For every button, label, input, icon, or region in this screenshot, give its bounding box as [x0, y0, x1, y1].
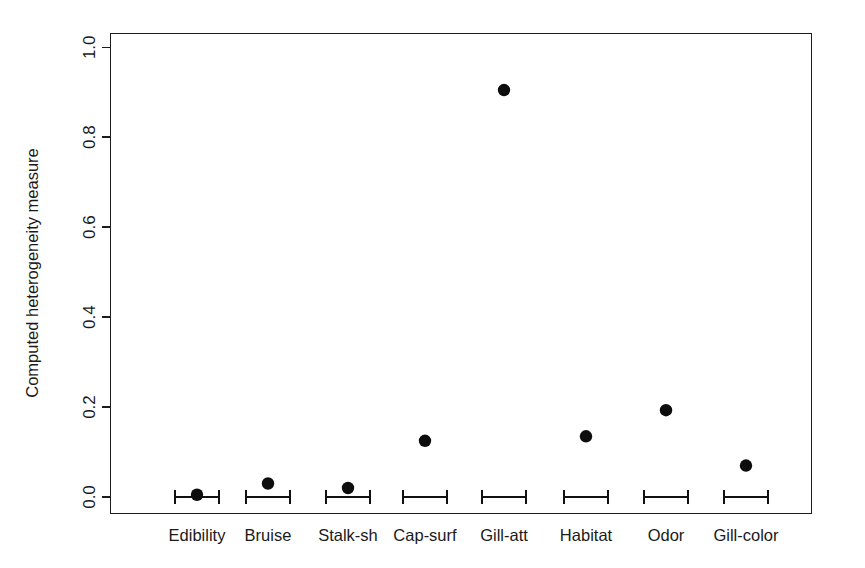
- plot-frame-box: [111, 34, 812, 514]
- x-axis-tick-label: Gill-att: [480, 526, 528, 544]
- y-axis-tick-labels: 0.00.20.40.60.81.0: [80, 35, 99, 508]
- scatter-plot-svg: 0.00.20.40.60.81.0 Computed heterogeneit…: [0, 0, 865, 568]
- y-axis-tick-label: 0.2: [80, 395, 99, 419]
- error-bars-group: [175, 490, 768, 504]
- data-point-marker: [660, 404, 672, 416]
- x-axis-tick-label: Odor: [648, 526, 685, 544]
- data-point-marker: [342, 482, 354, 494]
- data-point-marker: [191, 489, 203, 501]
- data-point-marker: [580, 430, 592, 442]
- y-axis-tick-label: 0.0: [80, 485, 99, 509]
- x-axis-tick-label: Bruise: [245, 526, 292, 544]
- x-axis-tick-label: Cap-surf: [393, 526, 457, 544]
- data-point-marker: [262, 477, 274, 489]
- x-axis-tick-label: Edibility: [169, 526, 227, 544]
- x-axis-tick-label: Gill-color: [713, 526, 779, 544]
- y-axis-tick-label: 0.6: [80, 215, 99, 239]
- y-axis-tick-label: 0.8: [80, 125, 99, 149]
- y-axis-tick-label: 1.0: [80, 35, 99, 59]
- data-point-marker: [419, 435, 431, 447]
- y-axis-tick-label: 0.4: [80, 305, 99, 329]
- y-axis-title: Computed heterogeneity measure: [23, 148, 41, 397]
- y-axis-tick-marks: [102, 47, 111, 497]
- x-axis-tick-label: Stalk-sh: [318, 526, 378, 544]
- data-point-marker: [740, 459, 752, 471]
- x-axis-tick-label: Habitat: [560, 526, 613, 544]
- chart-figure: 0.00.20.40.60.81.0 Computed heterogeneit…: [0, 0, 865, 568]
- data-points-group: [191, 84, 752, 501]
- data-point-marker: [498, 84, 510, 96]
- x-axis-tick-labels: EdibilityBruiseStalk-shCap-surfGill-attH…: [169, 526, 779, 544]
